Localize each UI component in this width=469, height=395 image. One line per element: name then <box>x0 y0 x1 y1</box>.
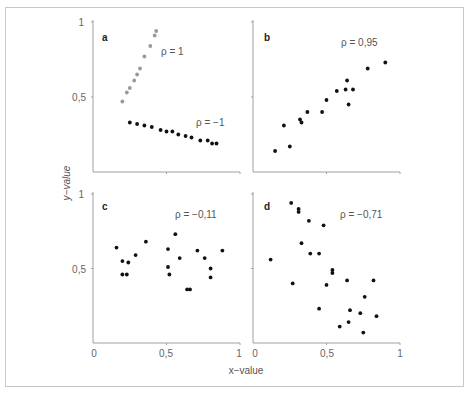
data-point <box>335 89 339 93</box>
panel-c-letter: c <box>102 201 108 212</box>
data-point <box>126 261 130 265</box>
data-point <box>383 61 387 65</box>
data-point <box>125 91 129 95</box>
y-tick-1: 1 <box>78 189 84 200</box>
data-point <box>138 67 142 71</box>
data-point <box>132 79 136 83</box>
data-point <box>325 283 329 287</box>
data-point <box>148 44 152 48</box>
data-point <box>363 295 367 299</box>
data-point <box>358 311 362 315</box>
x-tick-0: 0 <box>91 348 97 359</box>
data-point <box>307 219 311 223</box>
data-point <box>300 241 304 245</box>
x-axis-title: x−value <box>229 365 264 376</box>
data-point <box>165 130 169 134</box>
rho-label: ρ = 0,95 <box>341 37 378 48</box>
x-tick-1: 1 <box>397 348 403 359</box>
x-tick-0: 0 <box>252 348 258 359</box>
x-tick-1: 1 <box>236 348 242 359</box>
data-point <box>320 110 324 114</box>
scatter-figure: y−value x−value a 1 0,5 ρ = 1 ρ = −1 b ρ… <box>0 0 469 395</box>
y-tick-0-5: 0,5 <box>72 92 86 103</box>
rho-label-negative: ρ = −1 <box>196 117 225 128</box>
data-point <box>221 249 225 253</box>
data-point <box>317 307 321 311</box>
data-point <box>128 121 132 125</box>
rho-label: ρ = −0,71 <box>340 209 383 220</box>
x-tick-0-5: 0,5 <box>320 348 334 359</box>
data-point <box>121 100 125 104</box>
data-point <box>171 130 175 134</box>
data-point <box>344 88 348 92</box>
data-point <box>345 279 349 283</box>
data-point <box>166 247 170 251</box>
panel-d-letter: d <box>264 201 270 212</box>
data-point <box>159 128 163 132</box>
data-point <box>166 265 170 269</box>
data-point <box>176 133 180 137</box>
data-point <box>150 125 154 129</box>
data-point <box>135 73 139 77</box>
x-tick-0-5: 0,5 <box>159 348 173 359</box>
data-point <box>322 223 326 227</box>
data-point <box>203 256 207 260</box>
panel-b-letter: b <box>264 32 270 43</box>
data-point <box>325 98 329 102</box>
rho-label: ρ = −0,11 <box>175 209 217 220</box>
y-tick-0-5: 0,5 <box>72 264 86 275</box>
data-point <box>300 121 304 125</box>
panel-c: c 1 0,5 0 0,5 1 ρ = −0,11 <box>72 189 242 359</box>
data-point <box>209 276 213 280</box>
data-point <box>168 273 172 277</box>
data-point <box>347 320 351 324</box>
data-point <box>308 252 312 256</box>
data-point <box>347 103 351 107</box>
data-point <box>125 273 129 277</box>
data-point <box>184 134 188 138</box>
data-point <box>289 201 293 205</box>
data-point <box>273 149 277 153</box>
data-point <box>215 142 219 146</box>
y-axis-title: y−value <box>61 165 72 201</box>
data-point <box>372 279 376 283</box>
data-point <box>196 249 200 253</box>
data-point <box>269 258 273 262</box>
data-point <box>121 259 125 263</box>
data-point <box>375 314 379 318</box>
data-point <box>188 288 192 292</box>
data-point <box>351 88 355 92</box>
data-point <box>153 34 157 38</box>
data-point <box>128 86 132 90</box>
data-point <box>143 55 147 59</box>
data-point <box>288 145 292 149</box>
data-point <box>198 139 202 143</box>
rho-label-positive: ρ = 1 <box>161 46 184 57</box>
data-point <box>206 139 210 143</box>
data-point <box>361 331 365 335</box>
panel-d: d 0 0,5 1 ρ = −0,71 <box>251 192 403 359</box>
panel-a: a 1 0,5 ρ = 1 ρ = −1 <box>72 17 240 174</box>
y-tick-1: 1 <box>78 17 84 28</box>
data-point <box>190 136 194 140</box>
data-point <box>366 67 370 71</box>
data-point <box>348 308 352 312</box>
data-point <box>317 252 321 256</box>
data-point <box>143 124 147 128</box>
data-point <box>210 142 214 146</box>
data-point <box>209 267 213 271</box>
data-point <box>291 282 295 286</box>
panel-b: b ρ = 0,95 <box>251 20 400 174</box>
data-point <box>338 325 342 329</box>
panel-a-letter: a <box>102 32 108 43</box>
data-point <box>297 210 301 214</box>
data-point <box>345 79 349 83</box>
data-point <box>144 240 148 244</box>
data-point <box>173 232 177 236</box>
data-point <box>178 256 182 260</box>
data-point <box>135 122 139 126</box>
data-point <box>134 253 138 257</box>
data-point <box>282 124 286 128</box>
data-point <box>115 246 119 250</box>
data-point <box>306 110 310 114</box>
